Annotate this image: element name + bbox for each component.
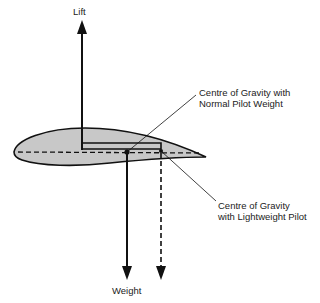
cg-light-label-line1: Centre of Gravity — [218, 200, 290, 211]
weight-arrow-light-head — [156, 266, 166, 280]
lift-label: Lift — [73, 6, 86, 17]
cg-normal-label-line2: Normal Pilot Weight — [199, 98, 283, 109]
weight-label: Weight — [112, 285, 141, 296]
cg-light-label-line2: with Lightweight Pilot — [218, 211, 307, 222]
weight-arrow-normal-head — [122, 266, 132, 280]
wing-airfoil — [14, 128, 206, 165]
leader-cg-light — [161, 151, 216, 201]
lift-arrow-head — [77, 20, 87, 34]
cg-normal-label-line1: Centre of Gravity with — [199, 87, 290, 98]
diagram-canvas — [0, 0, 320, 303]
